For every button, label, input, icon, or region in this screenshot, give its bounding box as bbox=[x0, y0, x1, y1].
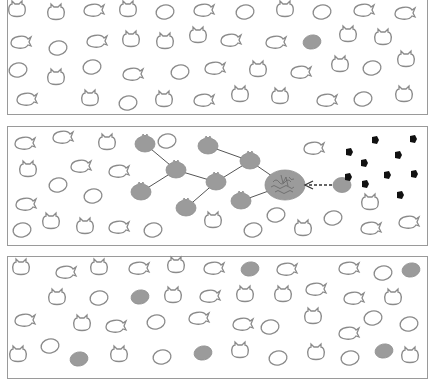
tailed-cell-icon bbox=[123, 68, 143, 80]
tailed-cell-icon bbox=[87, 35, 107, 47]
eared-cell-icon bbox=[402, 347, 419, 363]
eared-cell-icon bbox=[385, 289, 402, 305]
tailed-cell-icon bbox=[277, 263, 297, 275]
filled-oval-cell-icon bbox=[130, 288, 151, 305]
oval-cell-icon bbox=[260, 318, 281, 335]
filled-oval-cell-icon bbox=[193, 344, 214, 361]
eared-cell-icon bbox=[190, 27, 207, 43]
tailed-cell-icon bbox=[109, 221, 129, 233]
tailed-cell-icon bbox=[194, 94, 214, 106]
oval-cell-icon bbox=[48, 176, 69, 193]
oval-cell-icon bbox=[143, 221, 164, 238]
particle-icon bbox=[395, 151, 402, 159]
oval-cell-icon bbox=[155, 3, 176, 20]
eared-cell-icon bbox=[398, 51, 415, 67]
oval-cell-icon bbox=[118, 94, 139, 111]
tailed-cell-icon bbox=[15, 314, 35, 326]
oval-cell-icon bbox=[170, 63, 191, 80]
activated-cell-icon bbox=[135, 134, 155, 152]
eared-cell-icon bbox=[295, 220, 312, 236]
tailed-cell-icon bbox=[221, 34, 241, 46]
activated-cell-icon bbox=[198, 136, 218, 154]
tailed-cell-icon bbox=[361, 222, 381, 234]
filled-oval-cell-icon bbox=[240, 260, 261, 277]
tailed-cell-icon bbox=[266, 36, 286, 48]
eared-cell-icon bbox=[308, 344, 325, 360]
particle-icon bbox=[361, 159, 368, 167]
oval-cell-icon bbox=[89, 289, 110, 306]
eared-cell-icon bbox=[48, 69, 65, 85]
eared-cell-icon bbox=[205, 212, 222, 228]
tailed-cell-icon bbox=[291, 66, 311, 78]
tailed-cell-icon bbox=[339, 262, 359, 274]
tailed-cell-icon bbox=[71, 160, 91, 172]
tailed-cell-icon bbox=[354, 4, 374, 16]
oval-cell-icon bbox=[340, 349, 361, 366]
oval-cell-icon bbox=[146, 313, 167, 330]
particle-icon bbox=[397, 191, 404, 199]
activated-cell-icon bbox=[231, 191, 251, 209]
tailed-cell-icon bbox=[129, 262, 149, 274]
particle-icon bbox=[346, 148, 353, 156]
tailed-cell-icon bbox=[17, 93, 37, 105]
tailed-cell-icon bbox=[399, 216, 419, 228]
eared-cell-icon bbox=[99, 134, 116, 150]
eared-cell-icon bbox=[168, 257, 185, 273]
tailed-cell-icon bbox=[317, 94, 337, 106]
eared-cell-icon bbox=[120, 1, 137, 17]
tailed-cell-icon bbox=[395, 7, 415, 19]
tailed-cell-icon bbox=[53, 131, 73, 143]
eared-cell-icon bbox=[340, 26, 357, 42]
oval-cell-icon bbox=[83, 187, 104, 204]
eared-cell-icon bbox=[111, 346, 128, 362]
eared-cell-icon bbox=[156, 91, 173, 107]
oval-cell-icon bbox=[373, 264, 394, 281]
oval-cell-icon bbox=[8, 61, 29, 78]
activated-cell-icon bbox=[240, 151, 260, 169]
oval-cell-icon bbox=[235, 3, 256, 20]
eared-cell-icon bbox=[91, 259, 108, 275]
eared-cell-icon bbox=[375, 29, 392, 45]
hub-cell-icon bbox=[265, 170, 305, 200]
particle-icon bbox=[410, 135, 417, 143]
particle-icon bbox=[362, 180, 369, 188]
eared-cell-icon bbox=[275, 286, 292, 302]
eared-cell-icon bbox=[20, 161, 37, 177]
eared-cell-icon bbox=[74, 315, 91, 331]
oval-cell-icon bbox=[243, 221, 264, 238]
oval-cell-icon bbox=[48, 39, 69, 56]
activated-cell-icon bbox=[131, 182, 151, 200]
tailed-cell-icon bbox=[16, 198, 36, 210]
tailed-cell-icon bbox=[11, 36, 31, 48]
eared-cell-icon bbox=[165, 287, 182, 303]
eared-cell-icon bbox=[123, 31, 140, 47]
oval-cell-icon bbox=[363, 309, 384, 326]
oval-cell-icon bbox=[157, 132, 178, 149]
particle-icon bbox=[345, 173, 352, 181]
eared-cell-icon bbox=[232, 86, 249, 102]
eared-cell-icon bbox=[10, 346, 27, 362]
eared-cell-icon bbox=[48, 4, 65, 20]
particle-icon bbox=[411, 170, 418, 178]
eared-cell-icon bbox=[9, 1, 26, 17]
tailed-cell-icon bbox=[106, 320, 126, 332]
oval-cell-icon bbox=[399, 315, 420, 332]
activated-cell-icon bbox=[176, 198, 196, 216]
tailed-cell-icon bbox=[233, 318, 253, 330]
eared-cell-icon bbox=[77, 218, 94, 234]
oval-cell-icon bbox=[353, 90, 374, 107]
eared-cell-icon bbox=[272, 88, 289, 104]
oval-cell-icon bbox=[268, 349, 289, 366]
diagram-canvas bbox=[0, 0, 437, 383]
tailed-cell-icon bbox=[109, 165, 129, 177]
oval-cell-icon bbox=[40, 337, 61, 354]
eared-cell-icon bbox=[157, 33, 174, 49]
tailed-cell-icon bbox=[304, 142, 324, 154]
oval-cell-icon bbox=[152, 348, 173, 365]
tailed-cell-icon bbox=[205, 62, 225, 74]
oval-cell-icon bbox=[323, 209, 344, 226]
oval-cell-icon bbox=[362, 59, 383, 76]
tailed-cell-icon bbox=[339, 327, 359, 339]
tailed-cell-icon bbox=[56, 266, 76, 278]
filled-oval-cell-icon bbox=[302, 33, 323, 50]
